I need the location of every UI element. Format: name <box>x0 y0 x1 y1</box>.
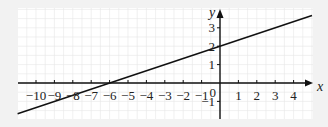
y-tick-label: 3 <box>209 20 216 35</box>
origin-label: 0 <box>210 85 217 100</box>
x-axis-label: x <box>316 79 324 94</box>
x-tick-label: 4 <box>290 88 297 103</box>
x-tick-label: 1 <box>235 88 242 103</box>
x-tick-label: −9 <box>47 88 61 103</box>
x-tick-label: −7 <box>84 88 98 103</box>
x-tick-label: 3 <box>272 88 279 103</box>
line-chart: −10−9−8−7−6−5−4−3−2−11234−11230xy <box>0 0 328 127</box>
x-tick-label: −2 <box>176 88 190 103</box>
x-tick-label: −6 <box>103 88 117 103</box>
y-tick-label: 2 <box>209 39 216 54</box>
x-tick-label: −10 <box>26 88 46 103</box>
y-tick-label: 1 <box>209 57 216 72</box>
y-axis-label: y <box>207 5 216 20</box>
x-tick-label: 2 <box>254 88 261 103</box>
x-tick-label: −4 <box>139 88 153 103</box>
x-tick-label: −8 <box>66 88 80 103</box>
x-tick-label: −3 <box>158 88 172 103</box>
x-tick-label: −5 <box>121 88 135 103</box>
